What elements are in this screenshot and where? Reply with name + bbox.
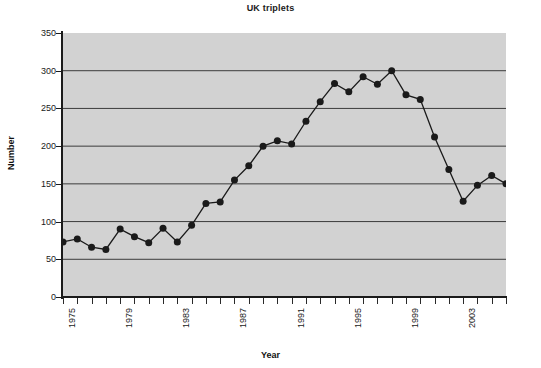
chart-container: UK triplets 050100150200250300350 197519… (0, 0, 541, 368)
x-tick-mark (406, 298, 407, 304)
data-point (145, 239, 152, 246)
x-tick-mark (120, 298, 121, 304)
data-point (460, 198, 467, 205)
chart-plot-svg (63, 33, 506, 297)
x-tick-mark (477, 298, 478, 304)
x-tick-mark (206, 298, 207, 304)
data-point (131, 233, 138, 240)
plot-area (63, 33, 506, 297)
data-point (245, 162, 252, 169)
y-tick-label: 50 (14, 254, 56, 264)
data-markers (63, 67, 506, 253)
y-axis-ticks: 050100150200250300350 (0, 0, 56, 368)
x-tick-mark (306, 298, 307, 304)
data-point (474, 182, 481, 189)
y-tick-label: 300 (14, 66, 56, 76)
x-tick-label: 1991 (296, 308, 306, 328)
y-tick-label: 350 (14, 28, 56, 38)
data-line (63, 71, 506, 250)
data-point (217, 198, 224, 205)
x-tick-mark (249, 298, 250, 304)
x-tick-label: 2003 (467, 308, 477, 328)
data-point (360, 73, 367, 80)
data-point (488, 172, 495, 179)
x-tick-label: 1987 (238, 308, 248, 328)
data-point (117, 226, 124, 233)
data-point (402, 91, 409, 98)
y-tick-label: 0 (14, 292, 56, 302)
x-tick-mark (134, 298, 135, 304)
x-tick-mark (377, 298, 378, 304)
x-tick-mark (463, 298, 464, 304)
data-point (331, 80, 338, 87)
x-tick-mark (263, 298, 264, 304)
chart-title: UK triplets (0, 3, 541, 13)
x-tick-mark (335, 298, 336, 304)
y-tick-mark (56, 146, 61, 147)
x-tick-mark (149, 298, 150, 304)
data-point (302, 118, 309, 125)
data-point (288, 140, 295, 147)
x-tick-mark (392, 298, 393, 304)
x-tick-label: 1975 (67, 308, 77, 328)
y-tick-mark (56, 71, 61, 72)
data-point (445, 166, 452, 173)
x-tick-label: 1995 (353, 308, 363, 328)
x-tick-label: 1979 (124, 308, 134, 328)
data-point (74, 235, 81, 242)
data-point (260, 143, 267, 150)
x-tick-mark (92, 298, 93, 304)
data-point (160, 225, 167, 232)
y-tick-label: 100 (14, 217, 56, 227)
data-point (231, 177, 238, 184)
x-tick-mark (506, 298, 507, 304)
data-point (102, 246, 109, 253)
data-point (388, 67, 395, 74)
gridlines (63, 71, 506, 260)
data-point (88, 244, 95, 251)
y-tick-mark (56, 108, 61, 109)
data-point (374, 81, 381, 88)
x-tick-mark (220, 298, 221, 304)
x-tick-mark (177, 298, 178, 304)
x-tick-label: 1999 (410, 308, 420, 328)
x-tick-mark (277, 298, 278, 304)
x-axis-title: Year (0, 350, 541, 360)
x-tick-mark (192, 298, 193, 304)
x-tick-mark (106, 298, 107, 304)
x-tick-mark (420, 298, 421, 304)
y-axis-title: Number (6, 123, 16, 183)
data-point (188, 222, 195, 229)
y-tick-mark (56, 33, 61, 34)
data-point (174, 238, 181, 245)
data-point (417, 96, 424, 103)
y-tick-label: 250 (14, 103, 56, 113)
x-tick-mark (163, 298, 164, 304)
x-axis-line (61, 296, 507, 298)
y-axis-line (61, 31, 63, 299)
x-tick-mark (349, 298, 350, 304)
y-tick-label: 150 (14, 179, 56, 189)
x-tick-mark (63, 298, 64, 304)
x-tick-mark (320, 298, 321, 304)
data-point (345, 88, 352, 95)
x-tick-mark (492, 298, 493, 304)
data-point (202, 200, 209, 207)
data-point (274, 137, 281, 144)
x-tick-mark (435, 298, 436, 304)
x-tick-label: 1983 (181, 308, 191, 328)
x-tick-mark (77, 298, 78, 304)
y-tick-label: 200 (14, 141, 56, 151)
x-tick-mark (363, 298, 364, 304)
data-point (63, 238, 67, 245)
x-tick-mark (449, 298, 450, 304)
y-tick-mark (56, 184, 61, 185)
data-point (317, 98, 324, 105)
y-tick-mark (56, 222, 61, 223)
y-tick-mark (56, 259, 61, 260)
x-tick-mark (234, 298, 235, 304)
x-tick-mark (292, 298, 293, 304)
y-tick-mark (56, 297, 61, 298)
data-point (431, 134, 438, 141)
